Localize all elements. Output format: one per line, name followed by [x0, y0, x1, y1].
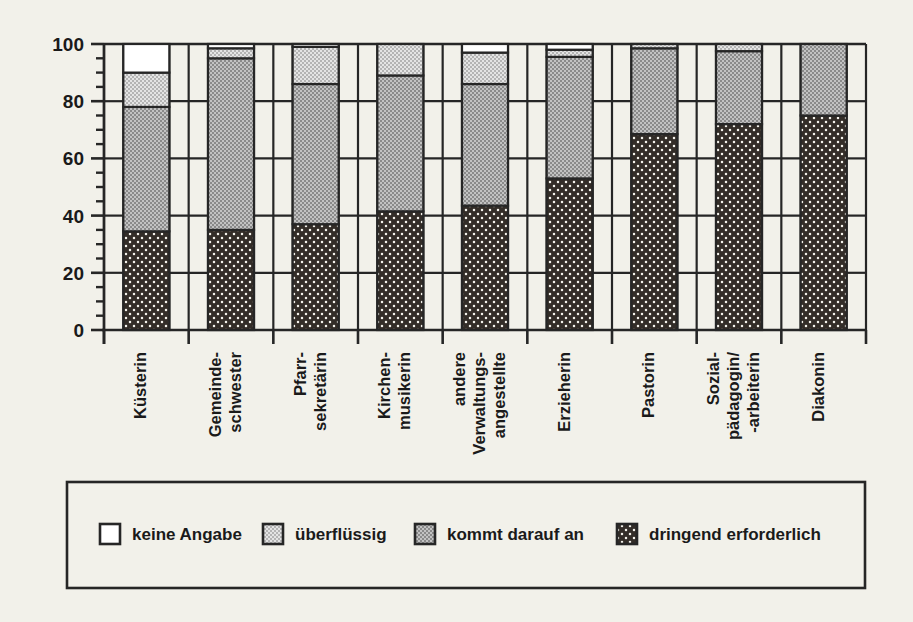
legend-item: dringend erforderlich: [617, 524, 821, 544]
bar-segment: [631, 134, 677, 330]
legend-item: kommt darauf an: [415, 524, 584, 544]
x-category-label: Verwaltungs-: [470, 352, 488, 455]
bar-segment: [547, 178, 593, 330]
x-category-label: -arbeiterin: [744, 352, 762, 433]
x-category-label: schwester: [226, 351, 244, 432]
bar-segment: [462, 84, 508, 206]
x-category-label: Pfarr-: [291, 352, 309, 396]
legend-label: kommt darauf an: [447, 525, 584, 544]
x-category-label: pädagogin/: [724, 352, 742, 440]
bar-segment: [123, 231, 169, 330]
bar-segment: [631, 48, 677, 134]
stacked-bar: [208, 44, 254, 330]
bar-segment: [716, 44, 762, 51]
x-axis-category-labels: KüsterinGemeinde-schwesterPfarr-sekretär…: [131, 351, 826, 454]
bar-segment: [208, 48, 254, 58]
x-category-label: Sozial-: [704, 352, 722, 405]
bar-segment: [293, 47, 339, 84]
bar-segment: [801, 116, 847, 331]
stacked-bar-chart: 020406080100 KüsterinGemeinde-schwesterP…: [0, 0, 913, 622]
x-category-label: musikerin: [395, 352, 413, 430]
x-category-label: Erzieherin: [555, 352, 573, 432]
bar-segment: [377, 44, 423, 75]
x-category-label: Küsterin: [131, 352, 149, 419]
stacked-bar: [377, 44, 423, 330]
stacked-bar: [547, 44, 593, 330]
x-category-label: Diakonin: [809, 352, 827, 422]
stacked-bar: [716, 44, 762, 330]
bar-segment: [547, 57, 593, 179]
bar-segment: [123, 107, 169, 231]
y-tick-label: 80: [63, 91, 84, 112]
chart-container: 020406080100 KüsterinGemeinde-schwesterP…: [0, 0, 913, 622]
x-category-label: Pastorin: [639, 352, 657, 418]
bar-segment: [801, 44, 847, 116]
y-tick-label: 100: [52, 34, 84, 55]
y-axis-tick-labels: 020406080100: [52, 34, 84, 341]
x-category-label: Kirchen-: [375, 352, 393, 419]
legend-swatch: [617, 524, 637, 544]
bar-group: [123, 44, 846, 330]
x-category-label: andere: [450, 352, 468, 406]
legend-swatch: [100, 524, 120, 544]
stacked-bar: [293, 44, 339, 330]
bar-segment: [716, 124, 762, 330]
bar-segment: [377, 75, 423, 211]
y-tick-label: 0: [73, 320, 84, 341]
bar-segment: [208, 44, 254, 48]
legend-label: überflüssig: [295, 525, 387, 544]
bar-segment: [462, 44, 508, 53]
bar-segment: [123, 44, 169, 73]
bar-segment: [377, 211, 423, 330]
bar-segment: [293, 44, 339, 47]
legend-item: keine Angabe: [100, 524, 242, 544]
legend: keine Angabeüberflüssigkommt darauf andr…: [67, 482, 865, 588]
bar-segment: [123, 73, 169, 107]
stacked-bar: [631, 44, 677, 330]
x-category-label: Gemeinde-: [206, 352, 224, 437]
bar-segment: [547, 44, 593, 50]
legend-item: überflüssig: [263, 524, 387, 544]
legend-label: keine Angabe: [132, 525, 242, 544]
bar-segment: [293, 84, 339, 224]
y-tick-label: 40: [63, 206, 84, 227]
stacked-bar: [123, 44, 169, 330]
x-category-label: angestellte: [490, 352, 508, 438]
legend-label: dringend erforderlich: [649, 525, 821, 544]
legend-swatch: [415, 524, 435, 544]
bar-segment: [462, 206, 508, 330]
y-tick-label: 60: [63, 148, 84, 169]
stacked-bar: [801, 44, 847, 330]
stacked-bar: [462, 44, 508, 330]
y-tick-label: 20: [63, 263, 84, 284]
bar-segment: [293, 224, 339, 330]
bar-segment: [631, 44, 677, 48]
bar-segment: [462, 53, 508, 84]
bar-segment: [208, 58, 254, 230]
bar-segment: [208, 230, 254, 330]
bar-segment: [716, 51, 762, 124]
legend-swatch: [263, 524, 283, 544]
x-category-label: sekretärin: [311, 352, 329, 431]
